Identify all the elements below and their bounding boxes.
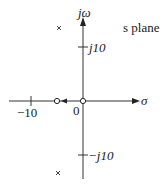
zero-left-icon: [54, 98, 59, 103]
tick-label-real-neg10: −10: [17, 106, 37, 119]
pole-upper-icon: [57, 26, 61, 30]
s-plane-diagram: jω s plane j10 σ −10 0 −j10: [0, 0, 166, 188]
plane-title: s plane: [123, 21, 159, 34]
imag-axis-label: jω: [78, 6, 91, 19]
real-axis-label: σ: [141, 94, 147, 107]
real-axis-arrow-icon: [132, 98, 140, 104]
tick-label-imag-neg10: −j10: [88, 149, 113, 162]
locus-arrow-icon: [61, 99, 67, 104]
origin-label: 0: [73, 104, 80, 117]
plane-title-text: s plane: [123, 20, 159, 35]
zero-origin-icon: [80, 98, 85, 103]
pole-lower-icon: [56, 171, 60, 175]
tick-label-imag-pos10: j10: [89, 41, 106, 54]
